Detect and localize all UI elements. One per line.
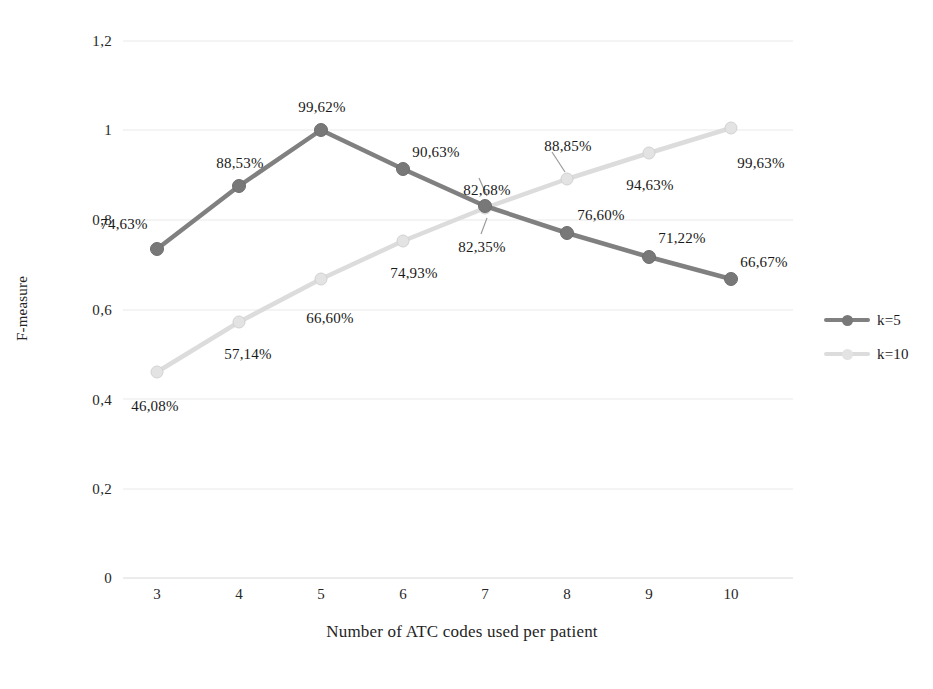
line-chart: F-measure 1,2 1 0,8 0,6 0,4 0,2 0 xyxy=(0,0,933,689)
x-tick-6: 6 xyxy=(383,586,423,603)
data-label-k10-3: 46,08% xyxy=(131,398,178,415)
x-tick-8: 8 xyxy=(547,586,587,603)
data-label-k10-5: 66,60% xyxy=(306,310,353,327)
x-tick-4: 4 xyxy=(219,586,259,603)
leader-line-88-85 xyxy=(552,152,565,172)
data-label-k10-9: 94,63% xyxy=(626,177,673,194)
data-label-k10-4: 57,14% xyxy=(224,346,271,363)
legend-swatch-k5-icon xyxy=(824,313,870,327)
data-label-k5-5: 99,62% xyxy=(298,99,345,116)
data-label-k10-8: 88,85% xyxy=(544,138,591,155)
data-label-k5-7: 82,68% xyxy=(463,182,510,199)
x-tick-7: 7 xyxy=(465,586,505,603)
data-label-k10-10: 99,63% xyxy=(737,155,784,172)
data-label-k10-7: 82,35% xyxy=(458,239,505,256)
legend-item-k10[interactable]: k=10 xyxy=(824,337,929,371)
data-label-k5-3: 74,63% xyxy=(100,216,147,233)
data-label-k10-6: 74,93% xyxy=(390,265,437,282)
data-label-k5-4: 88,53% xyxy=(216,155,263,172)
x-tick-10: 10 xyxy=(711,586,751,603)
x-tick-9: 9 xyxy=(629,586,669,603)
legend-label-k10: k=10 xyxy=(877,346,909,363)
x-tick-5: 5 xyxy=(301,586,341,603)
data-label-k5-8: 76,60% xyxy=(577,207,624,224)
legend-swatch-k10-icon xyxy=(824,347,870,361)
data-label-k5-6: 90,63% xyxy=(412,144,459,161)
data-label-k5-10: 66,67% xyxy=(740,254,787,271)
legend-item-k5[interactable]: k=5 xyxy=(824,303,929,337)
x-tick-3: 3 xyxy=(137,586,177,603)
legend-label-k5: k=5 xyxy=(877,312,901,329)
chart-legend: k=5 k=10 xyxy=(824,303,929,371)
gridlines xyxy=(123,41,793,578)
x-axis-title: Number of ATC codes used per patient xyxy=(112,622,812,642)
data-label-k5-9: 71,22% xyxy=(658,230,705,247)
